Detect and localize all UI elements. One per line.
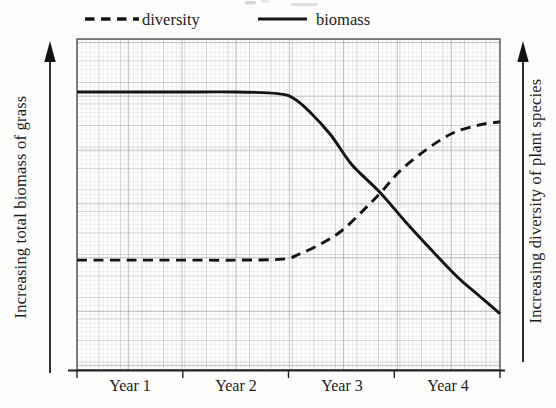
up-arrow-head-icon	[44, 41, 55, 62]
x-tick-label-year-3: Year 3	[321, 377, 362, 394]
grass-biomass-diversity-figure: diversity biomass Year 1 Y	[0, 0, 556, 408]
cropped-text-remnant	[245, 0, 318, 6]
x-tick-label-year-2: Year 2	[215, 377, 256, 394]
left-axis-arrow	[44, 41, 55, 373]
x-tick-label-year-1: Year 1	[109, 377, 150, 394]
legend-biomass-label: biomass	[316, 10, 370, 29]
x-tick-label-year-4: Year 4	[427, 377, 468, 394]
x-axis: Year 1 Year 2 Year 3 Year 4	[68, 371, 505, 395]
legend-diversity-label: diversity	[142, 10, 200, 29]
grid-paper	[77, 39, 500, 370]
right-axis-label: Increasing diversity of plant species	[526, 79, 545, 324]
legend: diversity biomass	[85, 10, 370, 29]
left-axis-label: Increasing total biomass of grass	[11, 96, 30, 319]
chart-canvas: diversity biomass Year 1 Y	[0, 0, 556, 408]
up-arrow-head-icon	[517, 41, 528, 62]
